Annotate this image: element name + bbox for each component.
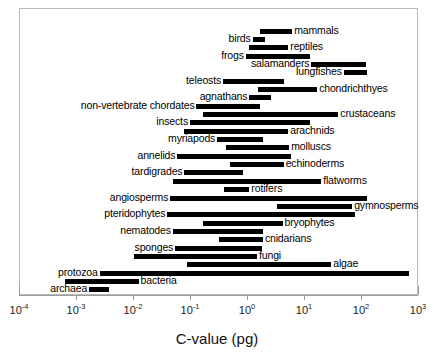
tick-exponent: 0 xyxy=(251,302,255,311)
range-bar xyxy=(230,162,284,167)
tick-mantissa: 10 xyxy=(410,304,422,316)
range-bar xyxy=(173,179,321,184)
x-axis-tick-label: 101 xyxy=(296,304,312,316)
range-bar xyxy=(196,104,260,109)
x-axis-tick-label: 102 xyxy=(353,304,369,316)
range-bar xyxy=(249,45,288,50)
figure-caption xyxy=(8,352,308,361)
tick-exponent: -2 xyxy=(136,302,143,311)
x-axis-tick xyxy=(76,295,77,300)
range-bar xyxy=(175,246,261,251)
tick-mantissa: 10 xyxy=(353,304,365,316)
range-bar xyxy=(260,29,292,34)
range-bar xyxy=(223,79,284,84)
tick-mantissa: 10 xyxy=(181,304,193,316)
range-bar xyxy=(277,204,353,209)
range-bar xyxy=(177,154,291,159)
range-label: archaea xyxy=(50,283,87,294)
tick-mantissa: 10 xyxy=(67,304,79,316)
x-axis-tick xyxy=(247,295,248,300)
range-bar xyxy=(89,287,109,292)
tick-exponent: -1 xyxy=(193,302,200,311)
x-axis-tick-label: 10-1 xyxy=(181,304,200,316)
x-axis-tick xyxy=(361,295,362,300)
x-axis-tick-label: 103 xyxy=(410,304,426,316)
tick-mantissa: 10 xyxy=(10,304,22,316)
range-bar xyxy=(249,95,270,100)
x-axis-tick-label: 10-4 xyxy=(10,304,29,316)
x-axis-tick xyxy=(190,295,191,300)
x-axis-tick xyxy=(19,286,20,295)
x-axis-tick-label: 100 xyxy=(239,304,255,316)
range-row: archaea xyxy=(0,284,434,295)
range-bar xyxy=(219,237,263,242)
range-bar xyxy=(226,145,290,150)
x-axis-tick-label: 10-3 xyxy=(67,304,86,316)
x-axis-tick-label: 10-2 xyxy=(124,304,143,316)
x-axis-tick xyxy=(304,295,305,300)
range-bar xyxy=(203,221,282,226)
range-bar xyxy=(258,87,317,92)
tick-exponent: -4 xyxy=(22,302,29,311)
x-axis-tick xyxy=(133,295,134,300)
range-bar xyxy=(253,37,266,42)
range-bar xyxy=(203,112,338,117)
range-bar xyxy=(344,70,368,75)
tick-exponent: 2 xyxy=(365,302,369,311)
range-bar xyxy=(170,196,366,201)
range-bar xyxy=(217,137,263,142)
tick-mantissa: 10 xyxy=(124,304,136,316)
tick-mantissa: 10 xyxy=(239,304,251,316)
range-bar xyxy=(173,229,263,234)
range-bar xyxy=(184,170,243,175)
x-axis-tick xyxy=(418,286,419,295)
tick-exponent: 3 xyxy=(422,302,426,311)
tick-exponent: -3 xyxy=(79,302,86,311)
tick-exponent: 1 xyxy=(308,302,312,311)
range-bar xyxy=(187,262,331,267)
tick-mantissa: 10 xyxy=(296,304,308,316)
c-value-figure: mammalsbirdsreptilesfrogssalamanderslung… xyxy=(0,0,434,362)
x-axis: 10-410-310-210-1100101102103 xyxy=(19,295,418,296)
range-bar xyxy=(134,254,257,259)
x-axis-line xyxy=(19,295,418,296)
x-axis-title: C-value (pg) xyxy=(0,330,434,347)
range-bar xyxy=(224,187,249,192)
